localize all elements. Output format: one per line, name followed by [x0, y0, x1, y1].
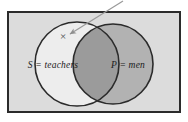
venn-diagram-figure: × S = teachers P = men	[0, 0, 188, 122]
venn-diagram-canvas: × S = teachers P = men	[0, 0, 188, 122]
set-label-p: P = men	[110, 60, 145, 70]
x-mark: ×	[60, 30, 66, 42]
set-label-s: S = teachers	[28, 60, 79, 70]
